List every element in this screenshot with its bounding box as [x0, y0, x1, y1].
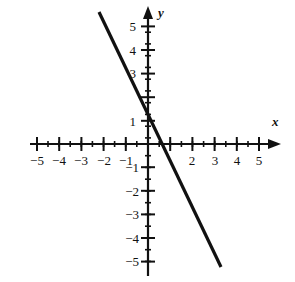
y-tick-label--3: −3 [125, 207, 139, 222]
y-tick-label-5: 5 [130, 19, 137, 34]
y-tick-label--5: −5 [125, 254, 139, 269]
plot-canvas: −5 −4 −3 −2 −1 2 3 4 5 5 4 3 1 −1 −2 −3 … [0, 0, 295, 282]
y-tick-label--1: −1 [125, 160, 139, 175]
x-axis-label: x [271, 114, 279, 129]
x-tick-label--2: −2 [97, 153, 111, 168]
x-axis-arrow-icon [268, 139, 281, 149]
y-tick-label--4: −4 [125, 231, 139, 246]
x-tick-label-3: 3 [212, 153, 219, 168]
x-tick-label-5: 5 [256, 153, 263, 168]
x-tick-label-2: 2 [189, 153, 196, 168]
y-tick-label-4: 4 [130, 43, 137, 58]
x-tick-label--5: −5 [30, 153, 44, 168]
cartesian-line-graph: −5 −4 −3 −2 −1 2 3 4 5 5 4 3 1 −1 −2 −3 … [0, 0, 295, 282]
x-tick-label--3: −3 [74, 153, 88, 168]
axes-group [30, 6, 281, 276]
plotted-line [99, 12, 221, 267]
y-axis-label: y [156, 5, 164, 20]
y-axis-arrow-icon [143, 6, 153, 19]
y-tick-label-1: 1 [130, 114, 137, 129]
x-tick-label--4: −4 [52, 153, 66, 168]
x-tick-label-4: 4 [234, 153, 241, 168]
y-tick-label--2: −2 [125, 184, 139, 199]
